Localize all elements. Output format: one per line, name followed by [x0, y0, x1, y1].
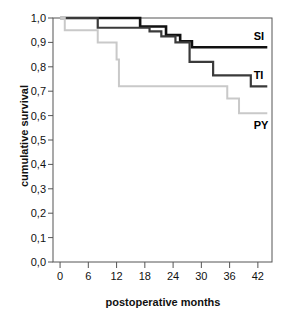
x-tick-label: 36 — [218, 270, 242, 282]
x-tick-label: 30 — [189, 270, 213, 282]
x-tick-label: 18 — [133, 270, 157, 282]
survival-chart-figure: cumulative survival postoperative months… — [0, 0, 289, 317]
x-tick-label: 0 — [48, 270, 72, 282]
plot-frame — [53, 18, 272, 262]
y-tick-label: 0,9 — [20, 37, 46, 47]
series-label-si: SI — [254, 30, 264, 42]
y-tick-label: 0,6 — [20, 111, 46, 121]
x-tick-label: 6 — [76, 270, 100, 282]
y-tick-label: 0,1 — [20, 233, 46, 243]
y-tick-label: 0,0 — [20, 257, 46, 267]
y-tick-label: 0,5 — [20, 135, 46, 145]
y-tick-label: 0,2 — [20, 208, 46, 218]
y-tick-label: 0,3 — [20, 184, 46, 194]
x-tick-label: 12 — [105, 270, 129, 282]
y-tick-label: 0,7 — [20, 86, 46, 96]
y-tick-label: 0,4 — [20, 159, 46, 169]
series-label-py: PY — [254, 119, 269, 131]
y-tick-label: 0,8 — [20, 62, 46, 72]
y-tick-label: 1,0 — [20, 13, 46, 23]
x-axis-title: postoperative months — [53, 296, 273, 308]
x-tick-label: 24 — [161, 270, 185, 282]
x-tick-label: 42 — [246, 270, 270, 282]
series-label-ti: TI — [254, 69, 264, 81]
